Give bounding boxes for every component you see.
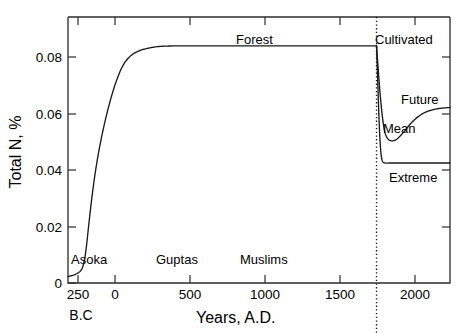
x-tick-label-1000: 1000	[235, 288, 295, 302]
x-tick-label-0: 0	[85, 288, 145, 302]
chart-plot-area	[0, 0, 460, 333]
x-axis-ticks	[78, 17, 415, 283]
x-tick-label-1500: 1500	[310, 288, 370, 302]
y-tick-label-0.02: 0.02	[6, 221, 62, 235]
annotation-asoka: Asoka	[71, 253, 107, 266]
annotation-cultivated: Cultivated	[375, 33, 433, 46]
annotation-extreme: Extreme	[389, 171, 437, 184]
x-axis-bc-label: B.C	[51, 308, 111, 322]
x-axis-title: Years, A.D.	[196, 310, 275, 326]
x-tick-label-2000: 2000	[385, 288, 445, 302]
y-axis-title: Total N, %	[8, 107, 24, 197]
axis-frame	[68, 17, 450, 283]
x-tick-label-500: 500	[160, 288, 220, 302]
annotation-muslims: Muslims	[240, 253, 288, 266]
annotation-forest: Forest	[236, 33, 273, 46]
series-line-forest	[68, 46, 377, 277]
y-tick-label-0.08: 0.08	[6, 51, 62, 65]
annotation-guptas: Guptas	[156, 253, 198, 266]
annotation-mean: Mean	[383, 122, 416, 135]
chart-figure: 0 0.02 0.04 0.06 0.08 250 0 500 1000 150…	[0, 0, 460, 333]
annotation-future: Future	[401, 93, 439, 106]
